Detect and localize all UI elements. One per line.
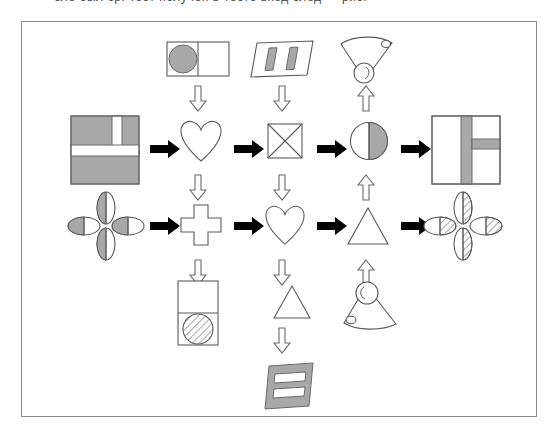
operator-slanted-gray-rect-two-white-bars: [259, 362, 319, 410]
operator-fan-with-circle-down: [336, 34, 402, 84]
arrow-row1-3: [317, 140, 347, 158]
node-r1c1-square-gray-with-white-t-bands: [70, 115, 140, 185]
node-r1c3-square-with-x: [267, 123, 303, 159]
operator-cone-with-circle-up: [338, 280, 404, 332]
cut-off-header-strip: сле был ср. тест получен в тесте вход сл…: [0, 0, 560, 11]
node-r2c5-four-petal-flower-hatched: [422, 192, 504, 260]
arrow-row2-2: [234, 217, 264, 235]
vertical-arrow-top-col4: [356, 85, 376, 113]
arrow-row1-1: [150, 140, 180, 158]
arrow-row1-2: [234, 140, 264, 158]
node-r2c2-plus-cross-outline: [180, 204, 222, 246]
operator-triangle-outline: [272, 284, 312, 320]
vertical-arrow-mid-col4: [356, 174, 376, 202]
operator-rect-two-cells-circle-gray: [166, 41, 230, 77]
operator-rect-two-cells-hatched-circle: [177, 280, 219, 346]
vertical-arrow-bottom2-col3: [272, 327, 292, 355]
arrow-row2-1: [150, 217, 180, 235]
operator-slanted-rect-two-gray-bars: [249, 39, 319, 79]
node-r2c3-heart-outline: [264, 204, 306, 246]
cut-off-header-text: сле был ср. тест получен в тесте вход сл…: [54, 0, 367, 3]
vertical-arrow-mid-col2: [188, 174, 208, 202]
vertical-arrow-top-col3: [272, 85, 292, 113]
diagram-frame: [21, 21, 537, 417]
arrow-row2-3: [317, 217, 347, 235]
node-r2c1-four-petal-flower-gray: [67, 192, 145, 260]
arrow-row1-4: [401, 140, 431, 158]
vertical-arrow-mid-col3: [272, 174, 292, 202]
node-r1c2-heart-outline: [180, 119, 222, 163]
vertical-arrow-bottom-col3: [272, 259, 292, 287]
node-r2c4-triangle-outline: [346, 206, 390, 246]
node-r1c5-square-white-with-gray-bands: [431, 115, 501, 185]
node-r1c4-circle-half-shaded: [349, 121, 389, 161]
vertical-arrow-top-col2: [188, 85, 208, 113]
